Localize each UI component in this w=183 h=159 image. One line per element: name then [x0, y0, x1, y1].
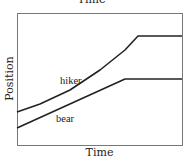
plot-area: hikerbear: [0, 0, 183, 159]
hiker-line: [17, 36, 182, 112]
hiker-label: hiker: [60, 75, 82, 86]
bear-label: bear: [56, 113, 75, 124]
